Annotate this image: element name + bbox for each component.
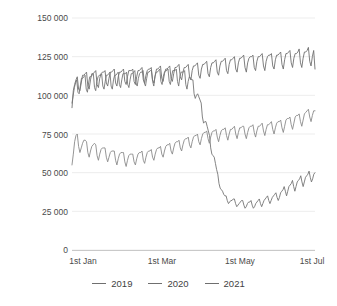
legend-item-2019[interactable]: 2019 (92, 278, 132, 289)
legend-label: 2020 (167, 278, 188, 289)
legend-label: 2019 (111, 278, 132, 289)
x-tick-label: 1st Jan (62, 256, 104, 266)
gridlines (72, 18, 315, 250)
legend-label: 2021 (224, 278, 245, 289)
legend-item-2021[interactable]: 2021 (205, 278, 245, 289)
x-tick-label: 1st Mar (140, 256, 184, 266)
series-lines (72, 47, 315, 208)
legend-line-icon (205, 283, 219, 284)
x-tick-label: 1st May (217, 256, 263, 266)
legend-item-2020[interactable]: 2020 (148, 278, 188, 289)
legend-line-icon (148, 283, 162, 284)
legend-line-icon (92, 283, 106, 284)
flights-line-chart: Number of commercial flights 150 000 125… (0, 0, 337, 306)
chart-legend: 2019 2020 2021 (0, 278, 337, 289)
series-line-2021 (72, 109, 315, 166)
x-tick-label: 1st Jul (292, 256, 332, 266)
